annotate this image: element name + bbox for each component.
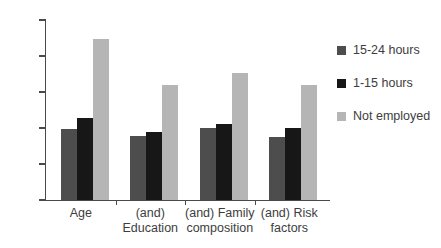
bar bbox=[130, 136, 146, 200]
legend-item: 1-15 hours bbox=[337, 77, 441, 89]
bar bbox=[200, 128, 216, 200]
y-axis-tick-mark bbox=[39, 91, 45, 92]
legend-item-label: Not employed bbox=[353, 110, 430, 122]
y-axis-tick-mark bbox=[39, 127, 45, 128]
x-axis-category-label: (and) Risk factors bbox=[243, 206, 337, 236]
x-axis-tick-mark bbox=[116, 201, 117, 205]
bar bbox=[216, 124, 232, 200]
bar-chart: 00.511.522.5 Age(and) Education(and) Fam… bbox=[0, 0, 441, 248]
legend-item: Not employed bbox=[337, 110, 441, 122]
bar bbox=[269, 137, 285, 200]
y-axis-tick-mark bbox=[39, 55, 45, 56]
legend-swatch-icon bbox=[337, 79, 346, 88]
y-axis-tick-mark bbox=[39, 19, 45, 20]
legend-item: 15-24 hours bbox=[337, 44, 441, 56]
bar bbox=[93, 39, 109, 200]
legend-item-label: 15-24 hours bbox=[353, 44, 420, 56]
bar bbox=[285, 128, 301, 200]
plot-area bbox=[46, 20, 324, 200]
chart-legend: 15-24 hours1-15 hoursNot employed bbox=[337, 44, 441, 143]
bar bbox=[146, 132, 162, 200]
y-axis-tick-mark bbox=[39, 163, 45, 164]
x-axis-line bbox=[45, 200, 330, 201]
bar bbox=[77, 118, 93, 200]
bar bbox=[232, 73, 248, 200]
x-axis-tick-mark bbox=[255, 201, 256, 205]
bar bbox=[61, 129, 77, 200]
x-axis-tick-mark bbox=[185, 201, 186, 205]
bar bbox=[301, 85, 317, 200]
legend-swatch-icon bbox=[337, 46, 346, 55]
legend-swatch-icon bbox=[337, 112, 346, 121]
legend-item-label: 1-15 hours bbox=[353, 77, 413, 89]
bar bbox=[162, 85, 178, 200]
y-axis-tick-mark bbox=[39, 199, 45, 200]
